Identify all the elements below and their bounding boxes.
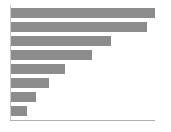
x-axis-line bbox=[10, 120, 155, 121]
bar-2 bbox=[11, 22, 147, 32]
bar-4 bbox=[11, 50, 92, 60]
bar-3 bbox=[11, 36, 111, 46]
bar-5 bbox=[11, 64, 65, 74]
bar-7 bbox=[11, 92, 36, 102]
bar-1 bbox=[11, 8, 155, 18]
plot-area bbox=[0, 0, 171, 132]
bar-6 bbox=[11, 78, 49, 88]
bar-chart bbox=[0, 0, 171, 132]
bar-8 bbox=[11, 106, 27, 116]
